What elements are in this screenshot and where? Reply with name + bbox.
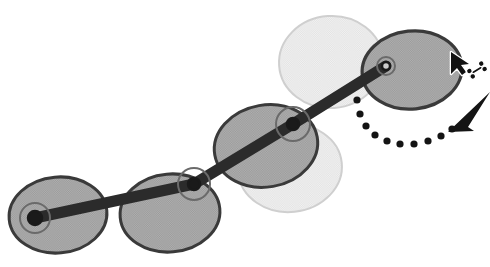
rotation-arc-dot-0 (353, 96, 360, 103)
rotation-arc-dot-8 (437, 132, 444, 139)
rotation-arc-dot-5 (396, 140, 403, 147)
rotation-arc-dot-1 (356, 110, 363, 117)
scene-svg (0, 0, 490, 267)
rotation-arc-dot-7 (424, 137, 431, 144)
bone-chain-diagram-canvas: Bone chain rotation An armature bone cha… (0, 0, 490, 267)
rotation-arc-dot-3 (371, 131, 378, 138)
rotation-arc-dot-4 (383, 137, 390, 144)
rotation-arc-dot-2 (362, 122, 369, 129)
rotation-arc-dot-6 (410, 140, 417, 147)
